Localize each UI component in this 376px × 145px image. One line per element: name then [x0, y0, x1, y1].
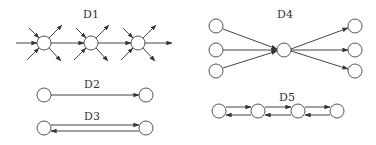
- arrow-edge: [96, 25, 109, 38]
- graph-node: [209, 64, 223, 78]
- graph-node: [84, 36, 98, 50]
- graph-node: [131, 36, 145, 50]
- diagram-d3: D3: [37, 110, 153, 135]
- graph-node: [209, 43, 223, 57]
- graph-node: [37, 36, 51, 50]
- arrow-edge: [96, 48, 108, 61]
- graph-node: [348, 19, 362, 33]
- diagram-canvas: D1 D2 D3 D4 D5: [0, 0, 376, 145]
- diagram-d5: D5: [212, 91, 344, 118]
- diagram-label-d3: D3: [84, 110, 100, 123]
- graph-node: [209, 19, 223, 33]
- graph-node: [330, 104, 344, 118]
- d5-nodes: [212, 104, 344, 118]
- arrow-edge: [291, 51, 348, 69]
- arrow-edge: [29, 28, 39, 38]
- arrow-edge: [74, 48, 86, 60]
- arrow-edge: [291, 28, 348, 49]
- arrow-edge: [143, 25, 156, 38]
- diagram-d1: D1: [16, 8, 172, 61]
- arrow-edge: [143, 48, 155, 61]
- d4-nodes: [209, 19, 362, 78]
- diagram-d4: D4: [209, 8, 362, 78]
- graph-node: [139, 121, 153, 135]
- arrow-edge: [121, 48, 133, 60]
- arrow-edge: [49, 25, 62, 38]
- arrow-edge: [223, 51, 277, 68]
- diagram-label-d4: D4: [277, 8, 293, 21]
- graph-node: [212, 104, 226, 118]
- arrow-edge: [49, 48, 61, 61]
- arrow-edge: [76, 28, 86, 38]
- graph-node: [291, 104, 305, 118]
- diagram-label-d1: D1: [83, 8, 99, 21]
- graph-node: [348, 43, 362, 57]
- graph-node: [348, 64, 362, 78]
- d3-nodes: [37, 121, 153, 135]
- d3-edges: [51, 125, 139, 131]
- diagram-d2: D2: [37, 78, 153, 102]
- arrow-edge: [223, 29, 277, 49]
- arrow-edge: [123, 28, 133, 38]
- diagram-label-d2: D2: [84, 78, 100, 91]
- diagram-label-d5: D5: [279, 91, 295, 104]
- graph-node: [251, 104, 265, 118]
- d5-edges: [226, 107, 330, 115]
- graph-node: [37, 121, 51, 135]
- arrow-edge: [27, 48, 39, 60]
- graph-node: [37, 88, 51, 102]
- graph-node: [277, 43, 291, 57]
- graph-node: [139, 88, 153, 102]
